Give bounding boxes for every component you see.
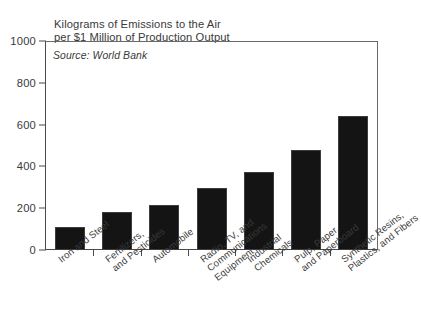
- y-tick-label: 600: [17, 119, 36, 131]
- y-tick-mark: [39, 124, 46, 125]
- x-axis-category-labels: Iron and SteelFertilizers,and Pesticides…: [0, 250, 395, 324]
- bar: [291, 150, 321, 250]
- y-tick-label: 800: [17, 77, 36, 89]
- y-tick-label: 1000: [10, 35, 36, 47]
- y-tick-mark: [39, 41, 46, 42]
- y-tick-label: 200: [17, 202, 36, 214]
- y-tick-label: 400: [17, 160, 36, 172]
- chart-title-line-1: Kilograms of Emissions to the Air: [54, 18, 221, 30]
- y-tick-mark: [39, 166, 46, 167]
- bars-layer: [46, 41, 377, 250]
- y-tick-mark: [39, 208, 46, 209]
- y-tick-mark: [39, 82, 46, 83]
